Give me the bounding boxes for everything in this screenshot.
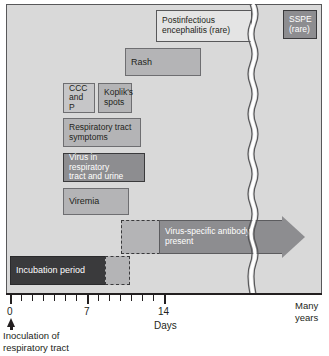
- bar-virus-specific-antibody: Virus-specific antibody present: [159, 220, 283, 254]
- axis-tick-1: [21, 295, 22, 301]
- bar-label-rash: Rash: [131, 57, 152, 67]
- axis-tick-7: [87, 295, 89, 304]
- axis-tick-4: [54, 295, 55, 301]
- bar-label-ccc-and-p: CCC and P: [69, 84, 89, 113]
- axis-tick-3: [43, 295, 44, 301]
- axis-tick-5: [65, 295, 66, 301]
- bar-koplik-spots: Koplik's spots: [98, 83, 132, 113]
- antibody-arrow-head: [282, 216, 305, 258]
- axis-tick-6: [76, 295, 77, 301]
- bar-label-virus-specific-antibody: Virus-specific antibody present: [165, 227, 277, 246]
- axis-label-14: 14: [158, 306, 169, 317]
- axis-tick-10: [120, 295, 121, 301]
- bar-virus-in-respiratory-tract: Virus in respiratory tract and urine: [63, 153, 145, 182]
- measles-timeline-diagram: Postinfectious encephalitis (rare) SSPE …: [0, 0, 329, 356]
- bar-ccc-and-p: CCC and P: [63, 83, 95, 113]
- axis-unit-days: Days: [154, 320, 177, 331]
- axis-tick-11: [131, 295, 132, 301]
- bar-label-postinfectious-encephalitis: Postinfectious encephalitis (rare): [162, 16, 230, 35]
- axis-tick-13: [153, 295, 154, 301]
- bar-incubation-period: Incubation period: [10, 256, 106, 285]
- axis-label-0: 0: [7, 306, 13, 317]
- bar-sspe: SSPE (rare): [283, 10, 317, 39]
- incubation-period-dashed-tail: [105, 256, 130, 285]
- axis-tick-9: [109, 295, 110, 301]
- axis-tick-0: [10, 295, 12, 304]
- bar-label-koplik-spots: Koplik's spots: [104, 88, 133, 107]
- bar-viremia: Viremia: [63, 188, 129, 215]
- axis-tick-2: [32, 295, 33, 301]
- axis-tick-12: [142, 295, 143, 301]
- axis-label-7: 7: [84, 306, 90, 317]
- axis-break-wavy-line: [246, 4, 260, 294]
- inoculation-annotation: Inoculation of respiratory tract: [3, 330, 69, 354]
- bar-label-sspe: SSPE (rare): [289, 15, 312, 34]
- bar-respiratory-tract-symptoms: Respiratory tract symptoms: [63, 118, 141, 147]
- bar-label-respiratory-tract-symptoms: Respiratory tract symptoms: [69, 123, 131, 142]
- axis-label-many-years: Many years: [295, 300, 318, 324]
- bar-label-viremia: Viremia: [69, 196, 99, 206]
- axis-tick-14: [164, 295, 166, 304]
- antibody-arrow-dashed-lead: [121, 220, 160, 254]
- bar-label-virus-in-respiratory-tract: Virus in respiratory tract and urine: [69, 153, 139, 182]
- axis-tick-8: [98, 295, 99, 301]
- bar-label-incubation-period: Incubation period: [16, 265, 85, 275]
- bar-postinfectious-encephalitis: Postinfectious encephalitis (rare): [156, 10, 252, 42]
- bar-rash: Rash: [125, 48, 201, 76]
